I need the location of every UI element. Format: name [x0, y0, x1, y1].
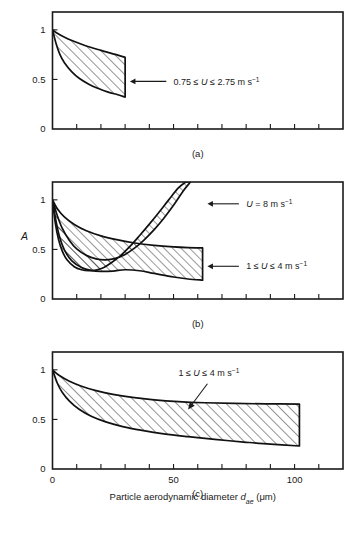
xtick-label: 50 [168, 474, 179, 485]
panel-b: 00.511 ≤ U ≤ 4 m s−1U = 8 m s−1(b)A [20, 182, 343, 329]
annotation-arrowhead [130, 79, 136, 85]
annotation-a-0: 0.75 ≤ U ≤ 2.75 m s−1 [130, 75, 260, 87]
panel-caption-a: (a) [192, 148, 204, 159]
ytick-label: 0 [40, 293, 45, 304]
xtick-label: 100 [287, 474, 303, 485]
ytick-label: 0.5 [32, 414, 45, 425]
annotation-label: 0.75 ≤ U ≤ 2.75 m s−1 [174, 75, 260, 87]
ytick-label: 0 [40, 123, 45, 134]
annotation-arrowhead [207, 263, 213, 269]
y-axis-title: A [20, 230, 28, 242]
figure-container: 00.510.75 ≤ U ≤ 2.75 m s−1(a)00.511 ≤ U … [0, 0, 359, 535]
annotation-leader-line [192, 384, 208, 405]
annotation-arrowhead [207, 201, 213, 207]
panel-c-plot-area [53, 370, 300, 446]
ytick-label: 0 [40, 463, 45, 474]
ytick-label: 1 [40, 364, 45, 375]
ytick-label: 1 [40, 194, 45, 205]
scientific-figure: 00.510.75 ≤ U ≤ 2.75 m s−1(a)00.511 ≤ U … [0, 0, 359, 535]
x-axis-title: Particle aerodynamic diameter dae (μm) [110, 491, 276, 505]
ytick-label: 0.5 [32, 74, 45, 85]
annotation-b-1: U = 8 m s−1 [207, 198, 292, 210]
panel-c: 00.511 ≤ U ≤ 4 m s−1(c)050100Particle ae… [32, 352, 343, 505]
panel-a-plot-area [53, 30, 126, 97]
xtick-label: 0 [50, 474, 55, 485]
panels-root: 00.510.75 ≤ U ≤ 2.75 m s−1(a)00.511 ≤ U … [20, 12, 343, 505]
annotation-label: 1 ≤ U ≤ 4 m s−1 [246, 260, 307, 272]
panel-a: 00.510.75 ≤ U ≤ 2.75 m s−1(a) [32, 12, 343, 159]
annotation-label: U = 8 m s−1 [246, 198, 293, 210]
panel-caption-b: (b) [192, 318, 204, 329]
ytick-label: 0.5 [32, 244, 45, 255]
ytick-label: 1 [40, 24, 45, 35]
annotation-label: 1 ≤ U ≤ 4 m s−1 [178, 366, 239, 378]
annotation-b-0: 1 ≤ U ≤ 4 m s−1 [207, 260, 307, 272]
panel-b-plot-area [53, 182, 203, 280]
band-fill-a-0 [53, 30, 126, 97]
